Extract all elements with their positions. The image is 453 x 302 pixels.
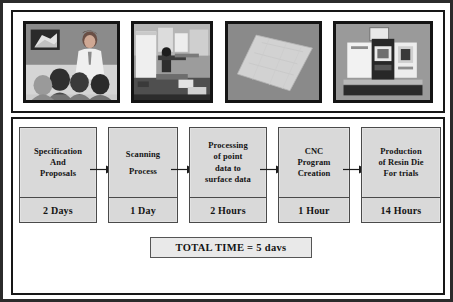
figure-inner-margin: Specification And Proposals 2 Days Scann… <box>7 7 446 295</box>
flowchart-panel: Specification And Proposals 2 Days Scann… <box>11 117 445 295</box>
flow-step-label: CNC Program Creation <box>279 128 349 197</box>
flow-arrow <box>267 127 278 223</box>
figure-page: Specification And Proposals 2 Days Scann… <box>0 0 453 302</box>
flow-step-duration: 1 Hour <box>279 197 349 222</box>
total-time-box: TOTAL TIME = 5 davs <box>150 237 312 258</box>
flow-step-duration: 2 Days <box>20 197 96 222</box>
flow-arrow <box>350 127 361 223</box>
flow-step-cnc-program: CNC Program Creation 1 Hour <box>278 127 350 223</box>
flow-step-resin-die: Production of Resin Die For trials 14 Ho… <box>361 127 441 223</box>
photo-surface-model <box>225 21 322 103</box>
flow-step-duration: 1 Day <box>109 197 177 222</box>
flow-step-processing: Processing of point data to surface data… <box>189 127 267 223</box>
flow-arrow <box>178 127 189 223</box>
total-time-label: TOTAL TIME = 5 davs <box>176 242 287 253</box>
photo-row <box>13 12 443 111</box>
flow-step-duration: 2 Hours <box>190 197 266 222</box>
flow-step-specification: Specification And Proposals 2 Days <box>19 127 97 223</box>
flow-steps-row: Specification And Proposals 2 Days Scann… <box>19 127 441 223</box>
flow-step-scanning: Scanning Process 1 Day <box>108 127 178 223</box>
photo-specification-meeting <box>23 21 120 103</box>
photo-strip-panel <box>11 10 445 113</box>
flow-step-duration: 14 Hours <box>362 197 440 222</box>
flow-step-label: Production of Resin Die For trials <box>362 128 440 197</box>
photo-cnc-machine <box>333 21 433 103</box>
flow-step-label: Scanning Process <box>109 128 177 197</box>
flow-arrow <box>97 127 108 223</box>
flow-step-label: Processing of point data to surface data <box>190 128 266 197</box>
flow-step-label: Specification And Proposals <box>20 128 96 197</box>
photo-scanning-equipment <box>131 21 213 103</box>
